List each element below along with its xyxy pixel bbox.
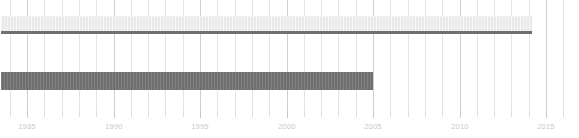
bar-lower-span-texture bbox=[1, 72, 373, 90]
axis-tick-1998 bbox=[252, 110, 253, 117]
axis-tick-2002 bbox=[321, 110, 322, 117]
axis-tick-1999 bbox=[269, 110, 270, 117]
axis-tick-2006 bbox=[390, 110, 391, 117]
axis-tick-label-2000: 2000 bbox=[278, 122, 296, 131]
axis-tick-1985 bbox=[27, 110, 28, 118]
axis-tick-1989 bbox=[96, 110, 97, 117]
axis-tick-label-2015: 2015 bbox=[537, 122, 555, 131]
axis-tick-label-1990: 1990 bbox=[105, 122, 123, 131]
axis-tick-2004 bbox=[356, 110, 357, 117]
axis-tick-2015 bbox=[546, 110, 547, 118]
axis-tick-2008 bbox=[425, 110, 426, 117]
axis-tick-2001 bbox=[304, 110, 305, 117]
axis-tick-1997 bbox=[235, 110, 236, 117]
axis-tick-label-2010: 2010 bbox=[451, 122, 469, 131]
axis-tick-1994 bbox=[183, 110, 184, 117]
axis-tick-1993 bbox=[165, 110, 166, 117]
axis-tick-2005 bbox=[373, 110, 374, 118]
axis-tick-1988 bbox=[79, 110, 80, 117]
axis-tick-1995 bbox=[200, 110, 201, 118]
bar-top-span-baseline bbox=[1, 31, 532, 34]
axis-tick-2011 bbox=[477, 110, 478, 117]
axis-tick-label-2005: 2005 bbox=[364, 122, 382, 131]
axis-tick-2012 bbox=[494, 110, 495, 117]
bar-top-span-texture bbox=[1, 17, 532, 32]
axis-tick-2003 bbox=[338, 110, 339, 117]
axis-tick-2009 bbox=[442, 110, 443, 117]
gridline-2016 bbox=[563, 0, 564, 117]
axis-tick-label-1995: 1995 bbox=[191, 122, 209, 131]
axis-tick-2014 bbox=[529, 110, 530, 117]
axis-tick-1990 bbox=[114, 110, 115, 118]
axis-tick-1992 bbox=[148, 110, 149, 117]
axis-tick-1996 bbox=[217, 110, 218, 117]
axis-tick-2007 bbox=[408, 110, 409, 117]
axis-tick-2000 bbox=[287, 110, 288, 118]
gridline-2015 bbox=[546, 0, 547, 117]
bar-lower-span[interactable] bbox=[1, 72, 373, 90]
axis-tick-1987 bbox=[62, 110, 63, 117]
axis-tick-label-1985: 1985 bbox=[18, 122, 36, 131]
axis-tick-2016 bbox=[563, 110, 564, 117]
axis-tick-1984 bbox=[10, 110, 11, 117]
axis-tick-2013 bbox=[511, 110, 512, 117]
timeline-chart: 1985199019952000200520102015 bbox=[0, 0, 579, 138]
bar-top-span[interactable] bbox=[1, 16, 532, 32]
axis-tick-1986 bbox=[44, 110, 45, 117]
axis-tick-1991 bbox=[131, 110, 132, 117]
axis-tick-2010 bbox=[460, 110, 461, 118]
